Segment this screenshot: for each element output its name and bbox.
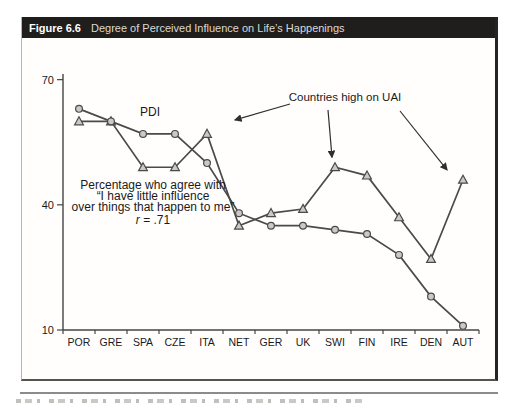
point-circle-NET [236, 210, 243, 217]
point-triangle-AUT [459, 175, 468, 183]
point-triangle-ITA [203, 129, 212, 137]
point-circle-GER [268, 222, 275, 229]
uai-annotation-label: Countries high on UAI [289, 91, 402, 103]
point-circle-SPA [140, 130, 147, 137]
x-tick-label-DEN: DEN [420, 336, 442, 348]
point-circle-IRE [396, 251, 403, 258]
x-tick-label-AUT: AUT [453, 336, 475, 348]
point-circle-UK [300, 222, 307, 229]
page-divider-rule [20, 392, 498, 394]
x-tick-label-UK: UK [296, 336, 311, 348]
point-circle-POR [76, 105, 83, 112]
point-circle-ITA [204, 160, 211, 167]
point-circle-CZE [172, 130, 179, 137]
y-tick-label: 10 [42, 324, 54, 336]
point-circle-AUT [460, 322, 467, 329]
x-tick-label-NET: NET [229, 336, 251, 348]
figure-number: Figure 6.6 [29, 22, 81, 34]
point-triangle-SWI [331, 163, 340, 171]
figure-box: Figure 6.6 Degree of Perceived Influence… [21, 17, 498, 381]
correlation-label: r = .71 [136, 213, 171, 227]
influence-line-chart: 104070PORGRESPACZEITANETGERUKSWIFINIREDE… [22, 38, 495, 379]
x-tick-label-SPA: SPA [133, 336, 153, 348]
uai-arrow-SWI [328, 110, 332, 157]
cropped-source-line [16, 399, 366, 403]
x-tick-label-CZE: CZE [165, 336, 186, 348]
x-tick-label-IRE: IRE [390, 336, 408, 348]
y-tick-label: 70 [42, 74, 54, 86]
point-circle-DEN [428, 293, 435, 300]
point-circle-FIN [364, 231, 371, 238]
figure-title: Degree of Perceived Influence on Life’s … [91, 22, 345, 34]
uai-arrow-AUT [400, 111, 447, 170]
x-tick-label-ITA: ITA [199, 336, 215, 348]
x-tick-label-GRE: GRE [100, 336, 123, 348]
figure-header-bar: Figure 6.6 Degree of Perceived Influence… [22, 17, 495, 38]
x-tick-label-FIN: FIN [359, 336, 376, 348]
pdi-series-label: PDI [140, 105, 160, 119]
x-tick-label-SWI: SWI [325, 336, 345, 348]
scanned-book-page: Figure 6.6 Degree of Perceived Influence… [0, 0, 516, 403]
x-tick-label-POR: POR [68, 336, 91, 348]
uai-arrow-ITA [235, 104, 290, 120]
point-circle-SWI [332, 226, 339, 233]
x-tick-label-GER: GER [260, 336, 283, 348]
y-tick-label: 40 [42, 199, 54, 211]
point-circle-GRE [108, 118, 115, 125]
